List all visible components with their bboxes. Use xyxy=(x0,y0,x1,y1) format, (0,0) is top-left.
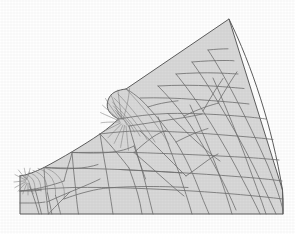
mesh-canvas xyxy=(0,0,295,234)
mesh-figure xyxy=(0,0,295,234)
